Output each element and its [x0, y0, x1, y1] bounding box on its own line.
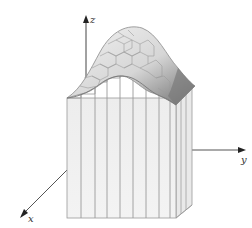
x-axis-label: x	[28, 214, 34, 224]
y-axis	[192, 147, 246, 153]
y-axis-label: y	[241, 155, 247, 165]
z-axis-label: z	[90, 15, 95, 25]
diagram-canvas	[0, 0, 252, 228]
x-axis	[20, 170, 67, 218]
riemann-sum-diagram: z y x	[0, 0, 252, 228]
